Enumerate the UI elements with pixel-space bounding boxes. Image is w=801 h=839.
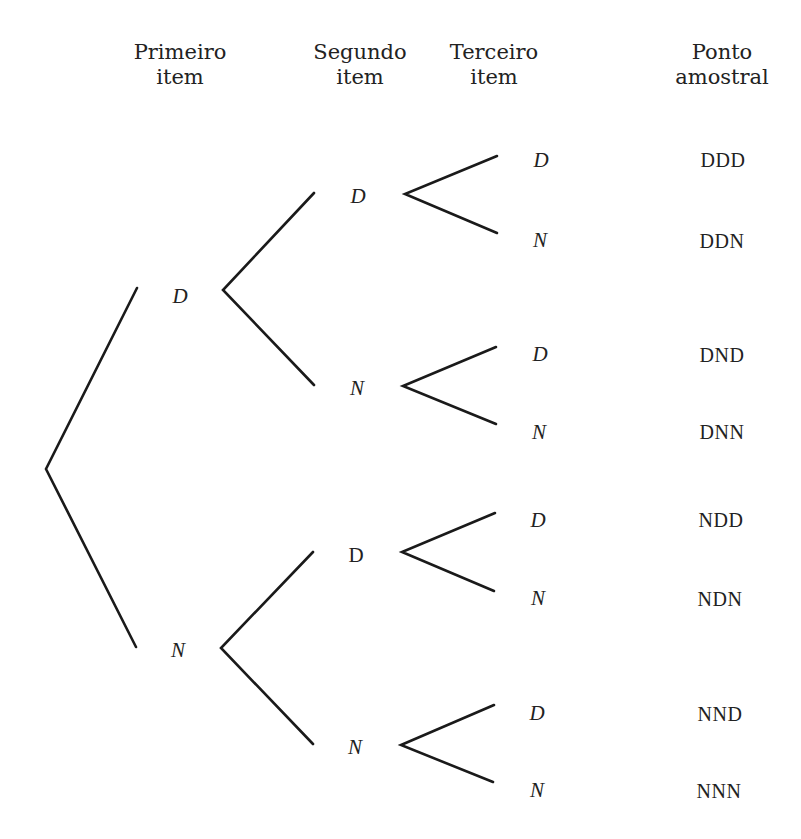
branch-from-DN — [403, 347, 496, 424]
branch-from-N — [221, 552, 313, 744]
node-level1-D: D — [172, 284, 187, 308]
branch-from-D — [223, 193, 314, 385]
branch-from-DD — [405, 156, 497, 233]
node-level3-NND: D — [529, 701, 544, 725]
node-level3-NDN: N — [531, 586, 545, 610]
sample-point-NDD: NDD — [699, 508, 744, 532]
node-level2-DD: D — [350, 184, 365, 208]
node-level2-DN: N — [350, 376, 364, 400]
node-level1-N: N — [171, 638, 185, 662]
sample-point-DNN: DNN — [700, 420, 745, 444]
sample-point-DDN: DDN — [700, 229, 745, 253]
sample-point-DDD: DDD — [701, 148, 746, 172]
sample-point-DND: DND — [700, 343, 745, 367]
node-level3-DND: D — [532, 342, 547, 366]
sample-point-NDN: NDN — [698, 587, 743, 611]
branch-from-NN — [401, 705, 494, 782]
node-level2-NN: N — [348, 735, 362, 759]
tree-branches — [0, 0, 801, 839]
branch-root — [46, 288, 137, 647]
node-level3-DNN: N — [532, 420, 546, 444]
sample-point-NNN: NNN — [697, 779, 742, 803]
node-level3-DDN: N — [533, 228, 547, 252]
sample-point-NND: NND — [698, 702, 743, 726]
branch-from-ND — [402, 513, 495, 591]
node-level3-NDD: D — [530, 508, 545, 532]
node-level3-NNN: N — [530, 778, 544, 802]
node-level2-ND: D — [348, 543, 363, 567]
node-level3-DDD: D — [533, 148, 548, 172]
